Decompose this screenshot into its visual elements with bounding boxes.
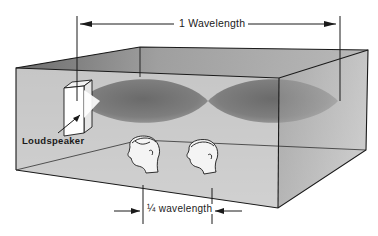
quarter-wavelength-label: ¼ wavelength	[145, 204, 214, 214]
loudspeaker-label: Loudspeaker	[22, 136, 84, 146]
standing-wave-diagram	[0, 0, 378, 236]
wavelength-label: 1 Wavelength	[176, 18, 248, 29]
